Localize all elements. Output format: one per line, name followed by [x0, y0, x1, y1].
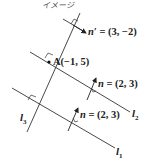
point-a-label: A(−1, 5)	[53, 57, 89, 68]
point-a-dot	[47, 60, 50, 63]
n-l1-value: = (2, 3)	[88, 109, 119, 120]
diagram-title: イメージ	[42, 2, 74, 10]
line-l1-label: l1	[116, 146, 123, 160]
n-l1-symbol: n	[80, 109, 86, 120]
right-angle-mark-a	[45, 53, 53, 58]
n-prime-symbol: n′	[88, 26, 97, 37]
line-l3-label: l3	[20, 112, 27, 126]
n-arrow-l1	[68, 108, 78, 131]
n-prime-label: n′ = (3, −2)	[88, 27, 137, 38]
n-prime-value: = (3, −2)	[99, 26, 136, 37]
n-l2-value: = (2, 3)	[106, 78, 137, 89]
n-prime-arrow	[73, 25, 86, 33]
n-l1-label: n = (2, 3)	[80, 110, 120, 121]
line-l2-label: l2	[132, 108, 139, 122]
n-l2-symbol: n	[98, 78, 104, 89]
n-l2-label: n = (2, 3)	[98, 79, 138, 90]
line-l3	[27, 13, 80, 132]
